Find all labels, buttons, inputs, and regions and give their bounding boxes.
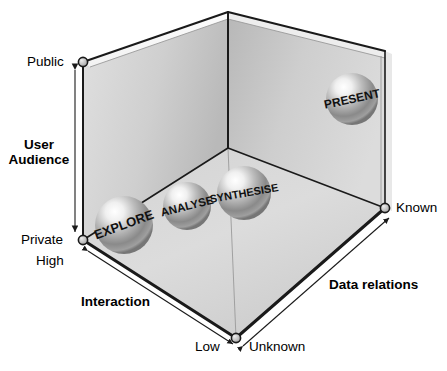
- diagram-canvas: EXPLORE ANALYSE SYNTHESISE PRESENT Publi…: [0, 0, 447, 371]
- tick-label-known: Known: [396, 200, 437, 215]
- axis-title-user-audience: User Audience: [5, 137, 73, 167]
- marker-low-unknown: [231, 333, 240, 342]
- right-edge-strip: [385, 51, 392, 211]
- axis-title-user-audience-line1: User: [5, 137, 73, 152]
- tick-label-public: Public: [27, 54, 64, 69]
- marker-private-high: [78, 235, 87, 244]
- marker-known: [380, 203, 389, 212]
- tick-label-high: High: [36, 253, 64, 268]
- axis-title-user-audience-line2: Audience: [5, 152, 73, 167]
- cube-diagram-svg: EXPLORE ANALYSE SYNTHESISE PRESENT: [0, 0, 447, 371]
- tick-label-unknown: Unknown: [249, 339, 305, 354]
- axis-title-interaction: Interaction: [81, 294, 150, 309]
- tick-label-low: Low: [195, 339, 220, 354]
- tick-label-private: Private: [21, 232, 63, 247]
- axis-title-data-relations: Data relations: [329, 277, 418, 292]
- marker-public: [78, 57, 87, 66]
